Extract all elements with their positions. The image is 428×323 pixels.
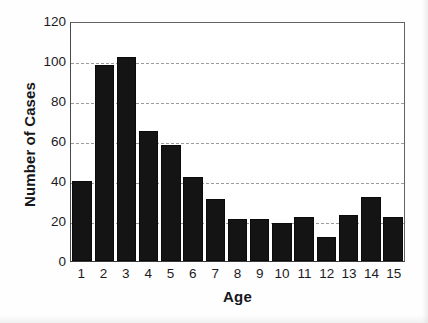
bar	[383, 217, 403, 261]
x-tick-label: 2	[92, 265, 114, 285]
x-tick-label: 5	[159, 265, 181, 285]
bar-cell	[160, 23, 182, 261]
x-tick-label: 15	[383, 265, 405, 285]
y-tick-label: 120	[22, 15, 66, 29]
plot-area	[70, 22, 405, 262]
bar	[294, 217, 314, 261]
bar	[139, 131, 159, 261]
x-tick-label: 11	[293, 265, 315, 285]
x-axis-title: Age	[70, 288, 405, 305]
y-tick-label: 100	[22, 55, 66, 69]
scan-edge-shadow	[422, 0, 428, 323]
bar-cell	[315, 23, 337, 261]
x-tick-label: 4	[137, 265, 159, 285]
x-tick-label: 12	[316, 265, 338, 285]
bar-cell	[337, 23, 359, 261]
x-tick-label: 13	[338, 265, 360, 285]
bar-cell	[382, 23, 404, 261]
bar-cell	[226, 23, 248, 261]
bar-cell	[204, 23, 226, 261]
y-tick-label: 80	[22, 95, 66, 109]
x-tick-label: 8	[226, 265, 248, 285]
y-tick-label: 20	[22, 215, 66, 229]
bar	[339, 215, 359, 261]
bar-cell	[115, 23, 137, 261]
y-tick-label: 60	[22, 135, 66, 149]
x-axis-tick-labels: 123456789101112131415	[70, 265, 405, 285]
y-axis-tick-labels: 120 100 80 60 40 20 0	[22, 0, 66, 323]
bar	[361, 197, 381, 261]
bar	[272, 223, 292, 261]
bar	[95, 65, 115, 261]
bar	[183, 177, 203, 261]
bar-cell	[249, 23, 271, 261]
bar-series	[71, 23, 404, 261]
bar	[72, 181, 92, 261]
bar	[117, 57, 137, 261]
bar-cell	[71, 23, 93, 261]
bar	[317, 237, 337, 261]
x-tick-label: 3	[115, 265, 137, 285]
bar-cell	[93, 23, 115, 261]
bar-cell	[182, 23, 204, 261]
bar-cell	[293, 23, 315, 261]
bar	[228, 219, 248, 261]
bar	[250, 219, 270, 261]
x-tick-label: 6	[182, 265, 204, 285]
bar-chart-figure: Number of Cases 120 100 80 60 40 20 0 12…	[0, 0, 428, 323]
x-tick-label: 1	[70, 265, 92, 285]
x-tick-label: 7	[204, 265, 226, 285]
x-tick-label: 10	[271, 265, 293, 285]
bar-cell	[138, 23, 160, 261]
bar	[161, 145, 181, 261]
x-tick-label: 9	[249, 265, 271, 285]
bar-cell	[360, 23, 382, 261]
y-tick-label: 0	[22, 255, 66, 269]
x-tick-label: 14	[360, 265, 382, 285]
y-tick-label: 40	[22, 175, 66, 189]
bar	[206, 199, 226, 261]
bar-cell	[271, 23, 293, 261]
